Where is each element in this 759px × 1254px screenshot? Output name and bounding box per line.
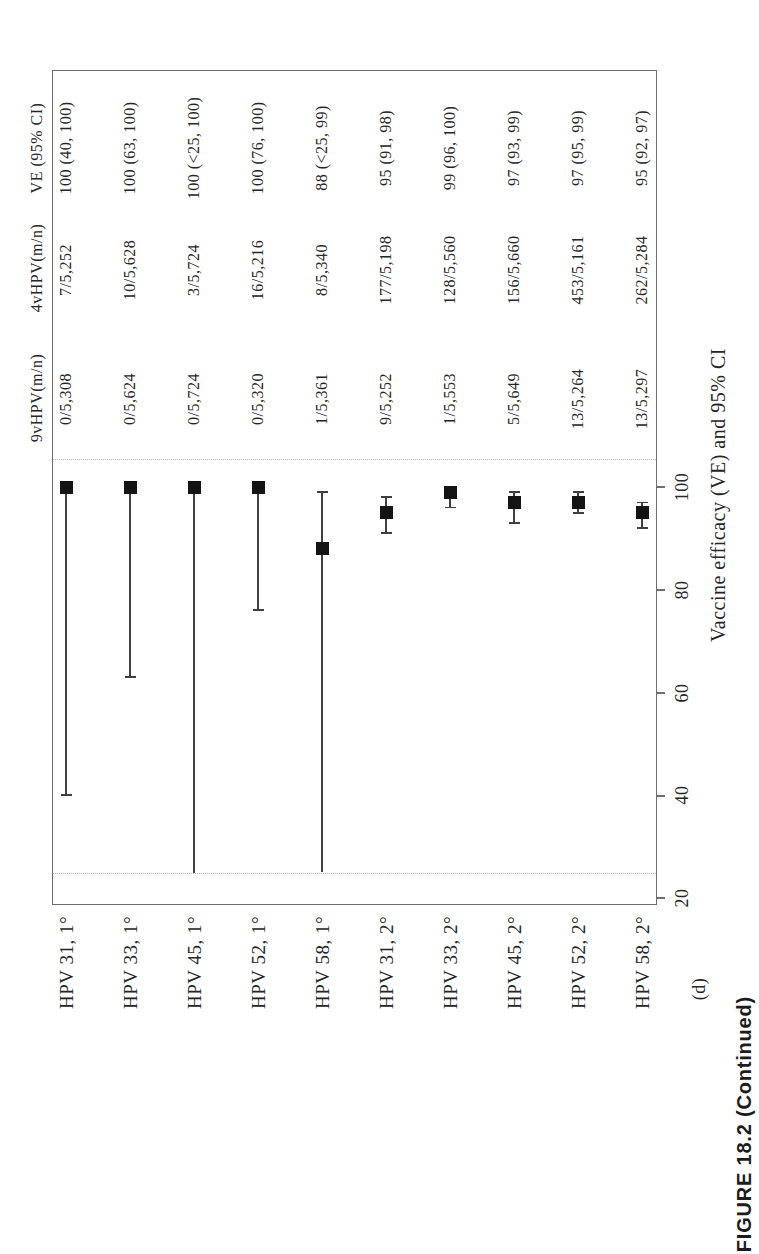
plot-frame [52, 70, 657, 905]
row-label: HPV 45, 2° [505, 916, 524, 1009]
ci-upper-cap [637, 502, 648, 504]
column-header-ve: VE (95% CI) [29, 103, 45, 194]
ci-whisker [65, 487, 67, 795]
ve-ci-value: 100 (76, 100) [250, 101, 266, 194]
ve-ci-value: 88 (<25, 99) [314, 105, 330, 191]
ci-whisker [193, 487, 195, 873]
ve-ci-value: 97 (95, 99) [570, 110, 586, 186]
ve-ci-value: 100 (<25, 100) [186, 97, 202, 200]
4vhpv-value: 16/5,216 [250, 240, 266, 300]
point-marker [124, 481, 137, 494]
tick-label-20: 20 [673, 889, 691, 908]
9vhpv-value: 0/5,724 [186, 373, 202, 425]
ci-lower-cap [637, 527, 648, 529]
point-marker [252, 481, 265, 494]
ci-lower-cap [573, 512, 584, 514]
point-marker [444, 486, 457, 499]
axis-tick-100 [656, 486, 665, 488]
ci-whisker [257, 487, 259, 610]
axis-title: Vaccine efficacy (VE) and 95% CI [708, 348, 728, 642]
9vhpv-value: 13/5,264 [570, 369, 586, 429]
ci-lower-cap [125, 676, 136, 678]
ve-ci-value: 100 (63, 100) [122, 101, 138, 194]
4vhpv-value: 177/5,198 [378, 236, 394, 305]
axis-tick-20 [656, 897, 665, 899]
ci-upper-cap [509, 491, 520, 493]
ci-lower-cap [445, 507, 456, 509]
tick-label-60: 60 [673, 684, 691, 703]
4vhpv-value: 453/5,161 [570, 236, 586, 305]
9vhpv-value: 13/5,297 [634, 369, 650, 429]
row-label: HPV 45, 1° [185, 916, 204, 1009]
4vhpv-value: 156/5,660 [506, 236, 522, 305]
row-label: HPV 52, 2° [569, 916, 588, 1009]
9vhpv-value: 0/5,320 [250, 373, 266, 425]
axis-tick-60 [656, 692, 665, 694]
tick-label-40: 40 [673, 786, 691, 805]
4vhpv-value: 262/5,284 [634, 236, 650, 305]
ci-whisker [129, 487, 131, 677]
9vhpv-value: 5/5,649 [506, 373, 522, 425]
figure-caption: FIGURE 18.2 (Continued) [734, 996, 754, 1252]
point-marker [508, 496, 521, 509]
ci-upper-cap [381, 496, 392, 498]
ve-ci-value: 95 (92, 97) [634, 110, 650, 186]
point-marker [572, 496, 585, 509]
column-header-4vhpv: 4vHPV(m/n) [29, 224, 45, 313]
4vhpv-value: 10/5,628 [122, 240, 138, 300]
row-label: HPV 52, 1° [249, 916, 268, 1009]
row-label: HPV 58, 2° [633, 916, 652, 1009]
9vhpv-value: 9/5,252 [378, 373, 394, 425]
point-marker [60, 481, 73, 494]
ci-upper-cap [317, 491, 328, 493]
ci-lower-cap [253, 609, 264, 611]
lower-clip-guideline [53, 873, 656, 874]
9vhpv-value: 0/5,308 [58, 373, 74, 425]
ci-upper-cap [573, 491, 584, 493]
9vhpv-value: 1/5,361 [314, 373, 330, 425]
4vhpv-value: 128/5,560 [442, 236, 458, 305]
4vhpv-value: 8/5,340 [314, 244, 330, 296]
point-marker [188, 481, 201, 494]
upper-clip-guideline [53, 459, 656, 460]
subfigure-label: (d) [690, 978, 708, 1001]
ve-ci-value: 100 (40, 100) [58, 101, 74, 194]
axis-tick-80 [656, 589, 665, 591]
9vhpv-value: 1/5,553 [442, 373, 458, 425]
tick-label-100: 100 [673, 473, 691, 502]
4vhpv-value: 3/5,724 [186, 244, 202, 296]
point-marker [316, 542, 329, 555]
axis-tick-40 [656, 795, 665, 797]
row-label: HPV 33, 1° [121, 916, 140, 1009]
row-label: HPV 33, 2° [441, 916, 460, 1009]
row-label: HPV 58, 1° [313, 916, 332, 1009]
tick-label-80: 80 [673, 581, 691, 600]
ci-lower-cap [509, 522, 520, 524]
ci-lower-cap [381, 532, 392, 534]
row-label: HPV 31, 2° [377, 916, 396, 1009]
column-header-9vhpv: 9vHPV(m/n) [29, 354, 45, 443]
scanned-figure-page: VE (95% CI) 4vHPV(m/n) 9vHPV(m/n) 100 (4… [0, 0, 759, 1254]
ve-ci-value: 95 (91, 98) [378, 110, 394, 186]
ci-lower-cap [61, 794, 72, 796]
4vhpv-value: 7/5,252 [58, 244, 74, 296]
ve-ci-value: 99 (96, 100) [442, 106, 458, 191]
point-marker [380, 506, 393, 519]
9vhpv-value: 0/5,624 [122, 373, 138, 425]
row-label: HPV 31, 1° [57, 916, 76, 1009]
point-marker [636, 506, 649, 519]
ve-ci-value: 97 (93, 99) [506, 110, 522, 186]
